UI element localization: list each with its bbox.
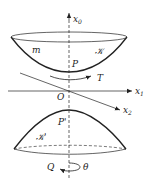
tangent-arrow	[50, 76, 91, 80]
origin-label: O	[57, 92, 65, 102]
point-p-prime-label: P'	[57, 117, 67, 127]
surface-label-k-prime: 𝒦'	[36, 132, 47, 142]
surface-label-k: 𝒦	[95, 46, 106, 56]
x1-axis-label: x1	[135, 86, 144, 97]
x2-axis-label: x2	[123, 105, 132, 116]
lower-hyperboloid-sheet	[14, 110, 126, 154]
point-p-label: P	[71, 59, 79, 69]
mass-label: m	[32, 45, 41, 55]
angle-theta-label: θ	[83, 162, 89, 172]
rotation-arrow	[60, 163, 80, 171]
x2-axis	[20, 73, 120, 110]
tangent-label: T	[97, 73, 104, 83]
x0-axis-label: x0	[73, 14, 82, 25]
rotation-point-q-label: Q	[47, 162, 55, 172]
hyperboloid-diagram: x0 x1 x2 O m 𝒦 P T P' 𝒦' Q θ	[0, 0, 154, 192]
